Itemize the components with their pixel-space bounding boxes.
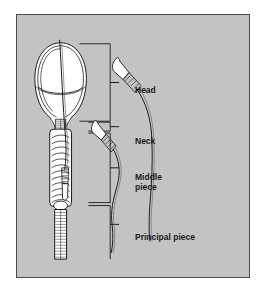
small-sperm-middle	[92, 120, 122, 253]
small-sperm-middle-tail-shadow	[113, 147, 121, 253]
small-sperm-middle-midpiece-outline	[101, 134, 116, 152]
bracket-principal-piece	[88, 206, 110, 260]
enlarged-sperm-cutaway	[35, 43, 87, 259]
bracket-middle-piece	[88, 133, 110, 202]
label-head: Head	[135, 86, 156, 96]
figure-root: Head Neck Middlepiece Principal piece	[0, 0, 265, 292]
label-middle-piece-line2: piece	[135, 182, 157, 192]
label-neck: Neck	[135, 137, 155, 147]
small-sperm-left-head	[62, 184, 68, 200]
label-middle-piece-line1: Middle	[135, 172, 162, 182]
annulus	[54, 201, 68, 210]
diagram-panel: Head Neck Middlepiece Principal piece	[16, 14, 250, 278]
sperm-diagram-svg	[17, 15, 249, 277]
small-sperm-right-head	[112, 58, 129, 80]
label-principal-piece: Principal piece	[135, 233, 195, 243]
label-middle-piece: Middlepiece	[135, 173, 162, 192]
